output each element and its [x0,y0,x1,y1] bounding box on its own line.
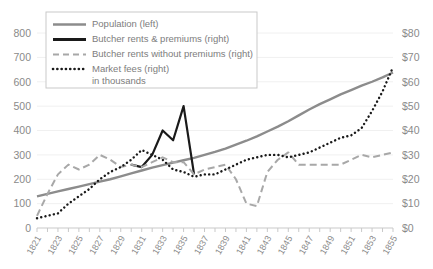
x-axis-label: 1827 [87,234,106,256]
legend: Population (left)Butcher rents & premium… [46,12,257,88]
series-group [37,67,393,218]
x-axis-label: 1855 [381,234,400,256]
x-axis-label: 1825 [66,234,85,256]
y-axis-right-label: $0 [402,222,414,234]
x-axis-label: 1843 [255,234,274,256]
y-axis-left-label: 800 [13,27,31,39]
y-axis-left-label: 600 [13,76,31,88]
x-axis-label: 1845 [276,234,295,256]
x-axis-label: 1847 [297,234,316,256]
x-axis-label: 1835 [171,234,190,256]
y-axis-right-label: $10 [402,197,420,209]
x-axis-label: 1829 [108,234,127,256]
series-line-0 [37,72,393,196]
y-axis-right-label: $80 [402,27,420,39]
y-axis-right: $0$10$20$30$40$50$60$70$80 [402,27,420,234]
y-axis-left-label: 100 [13,197,31,209]
y-axis-left-label: 400 [13,124,31,136]
x-axis-label: 1823 [45,234,64,256]
y-axis-left-label: 0 [25,222,31,234]
x-axis-label: 1841 [234,234,253,256]
x-axis-label: 1849 [318,234,337,256]
legend-label-1: Butcher rents & premiums (right) [92,33,229,44]
y-axis-right-label: $70 [402,51,420,63]
y-axis-right-label: $60 [402,76,420,88]
x-axis-label: 1821 [25,234,44,256]
y-axis-left-label: 300 [13,149,31,161]
y-axis-left: 0100200300400500600700800 [13,27,31,234]
x-axis-label: 1839 [213,234,232,256]
x-axis-label: 1853 [360,234,379,256]
y-axis-left-label: 200 [13,173,31,185]
y-axis-left-label: 500 [13,100,31,112]
x-axis-label: 1831 [129,234,148,256]
legend-label-2: Butcher rents without premiums (right) [92,48,253,59]
x-tickmarks [37,228,393,232]
x-axis-label: 1833 [150,234,169,256]
legend-label-3: Market fees (right) [92,63,169,74]
series-line-3 [37,67,393,218]
y-axis-right-label: $20 [402,173,420,185]
chart-container: 0100200300400500600700800$0$10$20$30$40$… [0,0,433,269]
legend-label-0: Population (left) [92,18,159,29]
legend-label-4: in thousands [92,75,146,86]
x-axis-label: 1851 [339,234,358,256]
y-axis-right-label: $50 [402,100,420,112]
y-axis-right-label: $30 [402,149,420,161]
y-axis-right-label: $40 [402,124,420,136]
x-axis-label: 1837 [192,234,211,256]
y-axis-left-label: 700 [13,51,31,63]
x-axis-labels: 1821182318251827182918311833183518371839… [25,234,400,256]
line-chart: 0100200300400500600700800$0$10$20$30$40$… [0,0,433,269]
